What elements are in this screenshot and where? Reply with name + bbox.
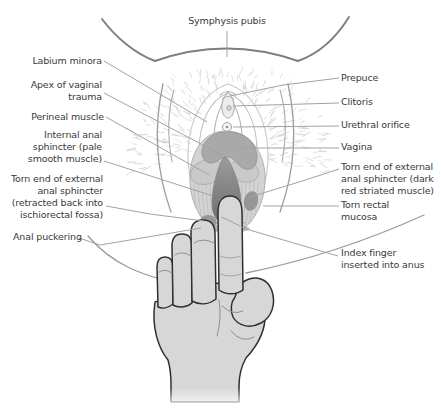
label-torn-external-sphincter-retracted: Torn end of external anal sphincter (ret…	[11, 173, 103, 221]
label-internal-anal-sphincter: Internal anal sphincter (pale smooth mus…	[28, 129, 102, 165]
label-torn-external-sphincter-dark: Torn end of external anal sphincter (dar…	[341, 161, 434, 197]
medical-diagram-perineal-tear: Symphysis pubis Labium minora Apex of va…	[0, 0, 441, 411]
groin-crease-left	[102, 19, 155, 61]
label-index-finger: Index finger inserted into anus	[341, 247, 424, 271]
thigh-crease-left	[157, 84, 171, 212]
label-prepuce: Prepuce	[341, 72, 378, 84]
examining-hand	[150, 196, 290, 411]
leader-apex-vaginal-trauma	[104, 93, 222, 155]
leader-urethral-orifice	[233, 126, 339, 127]
index-finger-extended	[218, 196, 243, 294]
label-labium-minora: Labium minora	[32, 55, 102, 67]
leader-labium-minora	[104, 61, 207, 122]
ring-finger-folded	[172, 234, 192, 307]
clitoris-nub	[227, 106, 231, 110]
label-perineal-muscle: Perineal muscle	[31, 111, 104, 123]
label-clitoris: Clitoris	[341, 96, 373, 108]
label-urethral-orifice: Urethral orifice	[341, 119, 410, 131]
thigh-crease-right-inner	[280, 90, 285, 162]
label-vagina: Vagina	[341, 141, 372, 153]
label-apex-of-vaginal-trauma: Apex of vaginal trauma	[31, 79, 102, 103]
label-anal-puckering: Anal puckering	[13, 231, 82, 243]
leader-torn-sphincter-left	[106, 206, 204, 221]
urethral-orifice-dot	[226, 126, 229, 129]
pinky-finger-folded	[157, 257, 173, 308]
wrist-fade	[150, 388, 290, 411]
label-symphysis-pubis: Symphysis pubis	[188, 15, 266, 27]
label-torn-rectal-mucosa: Torn rectal mucosa	[341, 199, 389, 223]
groin-crease-right	[298, 17, 349, 61]
leader-prepuce	[230, 78, 339, 96]
middle-finger-folded	[191, 220, 216, 304]
